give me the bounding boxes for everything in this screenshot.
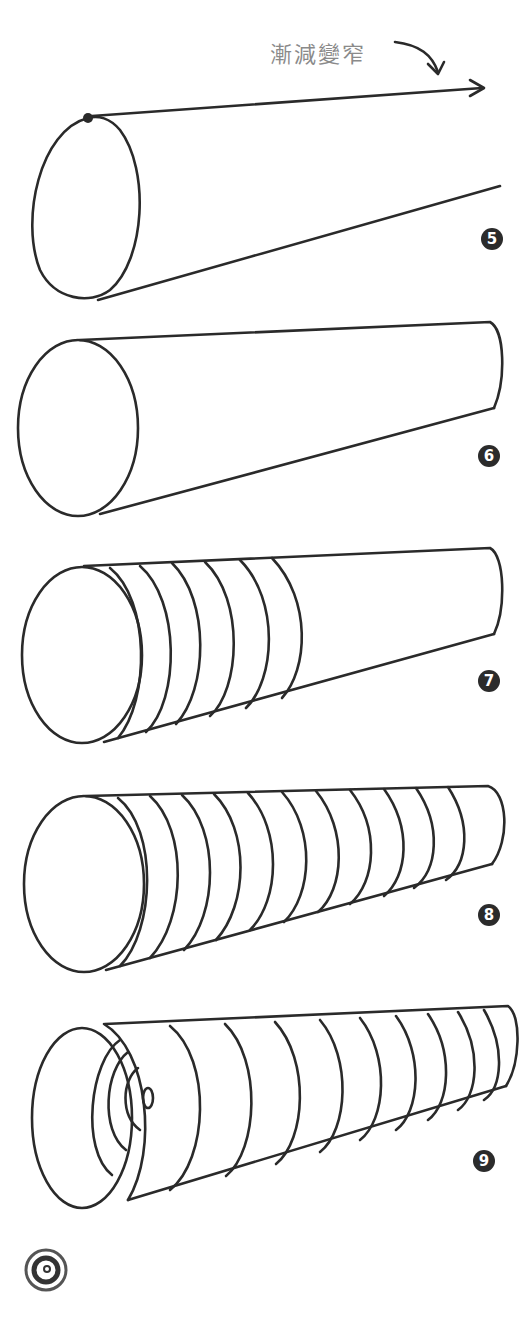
step-number-badge: 9 (473, 1150, 495, 1172)
step-8-drawing (24, 786, 504, 972)
step-6-drawing (18, 322, 502, 516)
step-number-badge: 5 (481, 228, 503, 250)
drawing-tutorial: 漸減變窄 5 6 7 8 9 (0, 0, 530, 1318)
step-5-drawing (32, 42, 500, 300)
step-7-drawing (22, 548, 502, 743)
taper-annotation: 漸減變窄 (270, 36, 366, 68)
step-number-badge: 8 (478, 904, 500, 926)
illustration-svg (0, 0, 530, 1318)
step-number-badge: 6 (478, 445, 500, 467)
swirl-doodle (26, 1250, 66, 1290)
step-number-badge: 7 (478, 670, 500, 692)
step-9-drawing (32, 1006, 518, 1208)
